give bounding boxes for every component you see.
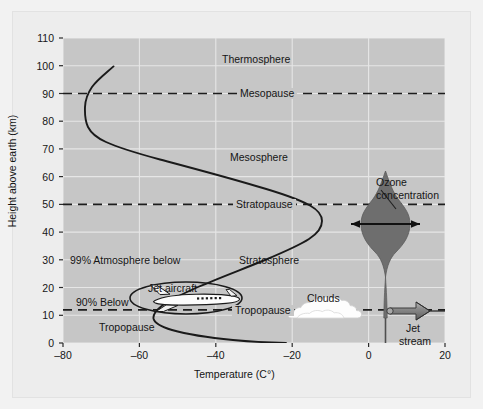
atmosphere-temperature-profile-figure: 110 100 90 80 70 60 50 40 30 20 10 0 –80… [0,0,483,409]
mesosphere-label: Mesosphere [230,152,288,163]
y-tick-10: 10 [14,310,54,321]
tropopause-mid-label: Tropopause [232,305,294,316]
ozone-label-line2: concentration [376,190,439,201]
below-90-label: 90% Below [76,297,129,308]
y-tick-60: 60 [14,172,54,183]
y-tick-70: 70 [14,144,54,155]
x-tick-0: 0 [357,350,381,361]
stratopause-label: Stratopause [233,199,296,210]
x-axis-title: Temperature (C°) [194,369,275,380]
y-tick-90: 90 [14,89,54,100]
y-tick-0: 0 [14,338,54,349]
atmosphere-99-label: 99% Atmosphere below [70,255,180,266]
mesopause-label: Mesopause [237,88,297,99]
x-tick-minus80: –80 [51,350,75,361]
y-tick-100: 100 [14,61,54,72]
y-tick-20: 20 [14,283,54,294]
y-tick-50: 50 [14,199,54,210]
y-tick-80: 80 [14,116,54,127]
y-tick-40: 40 [14,227,54,238]
thermosphere-label: Thermosphere [222,54,290,65]
jet-stream-label-line1: Jet [406,323,420,334]
stratosphere-label: Stratosphere [239,255,299,266]
jet-aircraft-label: Jet aircraft [148,283,197,294]
y-tick-30: 30 [14,255,54,266]
y-tick-110: 110 [14,33,54,44]
clouds-label: Clouds [307,293,340,304]
ozone-label-line1: Ozone [376,177,407,188]
x-tick-minus60: –60 [127,350,151,361]
x-tick-20: 20 [433,350,457,361]
x-tick-minus20: –20 [280,350,304,361]
x-tick-minus40: –40 [204,350,228,361]
jet-stream-label-line2: stream [399,336,431,347]
y-axis-title: Height above earth (km) [6,96,18,246]
tropopause-lower-label: Tropopause [99,322,155,333]
